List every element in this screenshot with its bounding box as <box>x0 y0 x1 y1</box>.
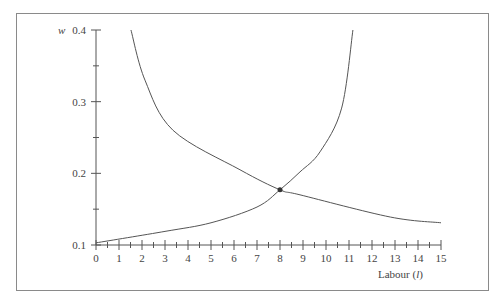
x-tick-label: 15 <box>436 252 448 264</box>
y-tick-label: 0.2 <box>72 167 86 179</box>
y-tick-label: 0.3 <box>72 96 86 108</box>
x-tick-label: 1 <box>116 252 122 264</box>
x-tick-label: 9 <box>300 252 306 264</box>
increasing-curve <box>96 30 353 243</box>
y-tick-label: 0.4 <box>72 24 86 36</box>
x-tick-label: 6 <box>231 252 237 264</box>
x-tick-label: 10 <box>321 252 333 264</box>
decreasing-curve <box>131 30 441 223</box>
equilibrium-point <box>278 187 283 192</box>
x-tick-label: 13 <box>390 252 402 264</box>
y-axis-label: w <box>58 24 66 36</box>
x-tick-label: 8 <box>277 252 283 264</box>
x-tick-label: 5 <box>208 252 214 264</box>
x-tick-label: 12 <box>367 252 378 264</box>
y-tick-label: 0.1 <box>72 239 86 251</box>
chart-canvas: 0.10.20.30.40123456789101112131415 w Lab… <box>0 0 504 308</box>
x-tick-label: 3 <box>162 252 168 264</box>
x-tick-label: 4 <box>185 252 191 264</box>
x-tick-label: 11 <box>344 252 355 264</box>
x-tick-label: 2 <box>139 252 145 264</box>
axes: 0.10.20.30.40123456789101112131415 <box>72 24 447 264</box>
x-tick-label: 7 <box>254 252 260 264</box>
x-tick-label: 14 <box>413 252 425 264</box>
points <box>278 187 283 192</box>
x-axis-label: Labour (l) <box>378 268 423 281</box>
x-tick-label: 0 <box>93 252 99 264</box>
curves <box>96 30 441 243</box>
